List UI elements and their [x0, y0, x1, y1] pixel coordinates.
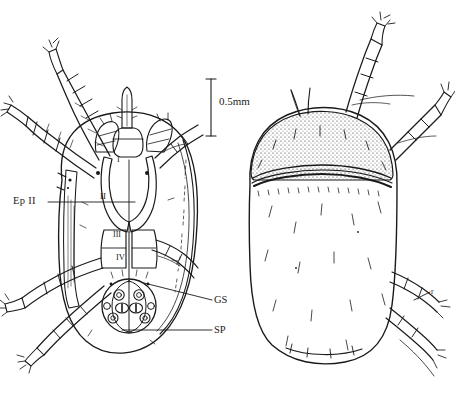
- genital-anal-plate: [102, 270, 156, 333]
- figure-plate: 0.5mm Ep II GS SP r I II III IV: [0, 0, 455, 403]
- label-coxa-2: II: [100, 192, 106, 201]
- leg-I-ventral: [43, 38, 110, 160]
- label-coxa-4: IV: [116, 253, 125, 262]
- dorsal-view: [249, 12, 455, 376]
- label-coxa-3: III: [113, 231, 121, 239]
- leg-II-dorsal: [390, 82, 455, 160]
- leg-II-ventral: [1, 96, 96, 178]
- capitulum: [95, 87, 172, 157]
- label-epimeral-plate: Ep II: [13, 196, 36, 207]
- scale-bar: [206, 79, 216, 136]
- leg-I-dorsal: [346, 12, 414, 118]
- coxal-plates: [96, 156, 157, 282]
- label-rostrum-marker: r: [431, 288, 434, 296]
- leader-lines: [48, 202, 430, 330]
- leg-III-ventral: [0, 258, 103, 316]
- tick-illustration: [0, 0, 455, 403]
- scale-bar-label: 0.5mm: [219, 96, 250, 107]
- leg-III-dorsal: [390, 272, 450, 318]
- label-spiracular-plate: SP: [214, 325, 226, 336]
- label-genital-structure: GS: [214, 295, 227, 306]
- label-coxa-1: I: [117, 156, 120, 164]
- leg-IV-dorsal: [386, 308, 446, 376]
- figure-caption-strip: [0, 392, 455, 403]
